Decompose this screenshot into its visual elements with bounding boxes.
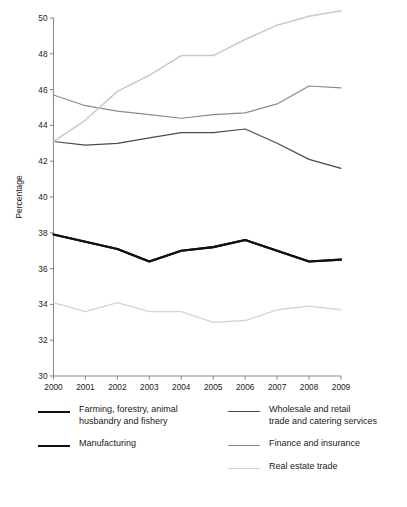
plot-area: 3032343638404244464850200020012002200320…: [0, 0, 407, 400]
chart-legend: Farming, forestry, animal husbandry and …: [0, 404, 407, 507]
y-tick-label: 38: [38, 228, 48, 238]
line-chart: 3032343638404244464850200020012002200320…: [0, 0, 407, 400]
legend-swatch-icon: [228, 411, 260, 412]
x-tick-label: 2000: [44, 382, 63, 392]
legend-item[interactable]: Finance and insurance: [228, 438, 407, 450]
legend-item[interactable]: Real estate trade: [228, 461, 407, 473]
legend-swatch-icon: [228, 445, 260, 446]
legend-label: Wholesale and retail trade and catering …: [269, 404, 377, 427]
x-tick-label: 2004: [172, 382, 191, 392]
y-tick-label: 50: [38, 13, 48, 23]
legend-column-left: Farming, forestry, animal husbandry and …: [38, 404, 218, 461]
series-line: [54, 86, 342, 118]
legend-label: Real estate trade: [269, 461, 338, 473]
legend-column-right: Wholesale and retail trade and catering …: [228, 404, 407, 483]
x-tick-label: 2002: [108, 382, 127, 392]
x-tick-label: 2005: [204, 382, 223, 392]
legend-swatch-icon: [38, 445, 70, 447]
series-line: [54, 235, 342, 262]
x-tick-label: 2009: [332, 382, 351, 392]
x-tick-label: 2007: [268, 382, 287, 392]
series-line: [54, 303, 342, 323]
y-tick-label: 48: [38, 49, 48, 59]
x-tick-label: 2006: [236, 382, 255, 392]
x-tick-label: 2008: [300, 382, 319, 392]
y-tick-label: 32: [38, 335, 48, 345]
y-tick-label: 40: [38, 192, 48, 202]
legend-label: Finance and insurance: [269, 438, 360, 450]
y-tick-label: 44: [38, 120, 48, 130]
y-tick-label: 46: [38, 85, 48, 95]
legend-swatch-icon: [38, 411, 70, 413]
series-line: [54, 129, 342, 168]
series-line: [54, 11, 342, 142]
legend-item[interactable]: Farming, forestry, animal husbandry and …: [38, 404, 218, 427]
legend-item[interactable]: Wholesale and retail trade and catering …: [228, 404, 407, 427]
y-tick-label: 42: [38, 156, 48, 166]
y-axis-title: Percentage: [14, 175, 24, 219]
x-tick-label: 2001: [76, 382, 95, 392]
legend-swatch-icon: [228, 468, 260, 469]
legend-item[interactable]: Manufacturing: [38, 438, 218, 450]
legend-label: Manufacturing: [79, 438, 136, 450]
legend-label: Farming, forestry, animal husbandry and …: [79, 404, 178, 427]
x-tick-label: 2003: [140, 382, 159, 392]
chart-figure: 3032343638404244464850200020012002200320…: [0, 0, 407, 507]
y-tick-label: 34: [38, 299, 48, 309]
y-tick-label: 36: [38, 264, 48, 274]
y-tick-label: 30: [38, 371, 48, 381]
